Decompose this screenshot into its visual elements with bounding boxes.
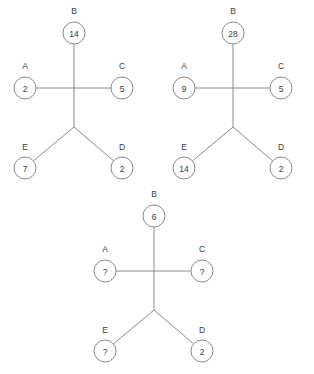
diagram-1-node-c[interactable]: 5C — [111, 61, 133, 99]
diagram-2-node-c[interactable]: 5C — [270, 61, 292, 99]
diagram-3-edges — [113, 227, 193, 344]
diagram-3-node-d-label: D — [199, 325, 205, 335]
diagram-3-node-a[interactable]: ?A — [94, 244, 116, 282]
diagram-2-node-d-label: D — [278, 142, 284, 152]
diagram-3-node-a-value: ? — [103, 267, 108, 277]
diagram-1-edge-d — [74, 127, 114, 161]
diagram-2-node-c-label: C — [278, 61, 284, 71]
diagram-3-node-c-value: ? — [200, 267, 205, 277]
diagram-2-node-d-value: 2 — [279, 164, 284, 174]
diagram-3-node-d[interactable]: 2D — [191, 325, 213, 362]
diagram-1-edges — [33, 44, 113, 161]
diagram-2-edges — [192, 44, 272, 161]
diagram-3-node-e-value: ? — [103, 347, 108, 357]
diagram-1-edge-e — [33, 127, 74, 161]
diagram-1-node-e[interactable]: 7E — [14, 142, 36, 179]
diagram-2-node-e-label: E — [181, 142, 187, 152]
diagram-board: 14B2A5C7E2D28B9A5C14E2D6B?A?C?E2D — [0, 0, 314, 374]
diagram-3-node-d-value: 2 — [200, 347, 205, 357]
diagram-3-edge-d — [154, 310, 194, 344]
diagram-1-node-e-label: E — [22, 142, 28, 152]
diagram-2-node-b-value: 28 — [228, 29, 238, 39]
diagram-3-node-e[interactable]: ?E — [94, 325, 116, 362]
diagram-1-node-d[interactable]: 2D — [111, 142, 133, 179]
diagram-1-node-a-value: 2 — [23, 84, 28, 94]
diagram-1-node-a[interactable]: 2A — [14, 61, 36, 99]
diagram-1-node-b[interactable]: 14B — [63, 6, 85, 44]
diagram-1-node-d-value: 2 — [120, 164, 125, 174]
diagram-2-node-e-value: 14 — [179, 164, 189, 174]
diagram-2-node-b-label: B — [230, 6, 236, 16]
diagram-3-node-b-value: 6 — [152, 212, 157, 222]
diagram-canvas: 14B2A5C7E2D28B9A5C14E2D6B?A?C?E2D — [0, 0, 314, 374]
diagram-3-node-b-label: B — [151, 189, 157, 199]
diagram-3-node-a-label: A — [102, 244, 108, 254]
diagram-2-node-a-value: 9 — [182, 84, 187, 94]
diagram-3-edge-e — [113, 310, 154, 344]
diagram-1-node-e-value: 7 — [23, 164, 28, 174]
diagram-3-node-b[interactable]: 6B — [143, 189, 165, 227]
diagram-2-node-a-label: A — [181, 61, 187, 71]
diagram-1-node-c-label: C — [119, 61, 125, 71]
diagram-2-node-b[interactable]: 28B — [222, 6, 244, 44]
diagram-1-node-c-value: 5 — [120, 84, 125, 94]
diagram-3-node-e-label: E — [102, 325, 108, 335]
diagram-1-node-b-label: B — [71, 6, 77, 16]
nodes-layer: 14B2A5C7E2D28B9A5C14E2D6B?A?C?E2D — [14, 6, 292, 362]
diagram-2-node-a[interactable]: 9A — [173, 61, 195, 99]
diagram-2-edge-d — [233, 127, 273, 161]
diagram-2-node-e[interactable]: 14E — [173, 142, 195, 179]
diagram-3-node-c-label: C — [199, 244, 205, 254]
diagram-1-node-a-label: A — [22, 61, 28, 71]
diagram-3-node-c[interactable]: ?C — [191, 244, 213, 282]
diagram-1-node-d-label: D — [119, 142, 125, 152]
diagram-2-edge-e — [192, 127, 233, 161]
diagram-2-node-c-value: 5 — [279, 84, 284, 94]
diagram-2-node-d[interactable]: 2D — [270, 142, 292, 179]
diagram-1-node-b-value: 14 — [69, 29, 79, 39]
